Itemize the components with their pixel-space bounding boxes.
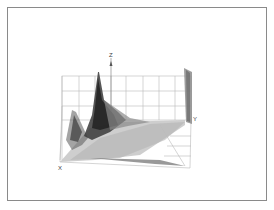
- y-axis-label: Y: [193, 116, 197, 122]
- surface-plot[interactable]: Z X Y: [0, 0, 274, 210]
- z-axis-label: Z: [109, 52, 113, 58]
- x-axis-label: X: [58, 165, 62, 171]
- surface-right-wall: [184, 68, 192, 124]
